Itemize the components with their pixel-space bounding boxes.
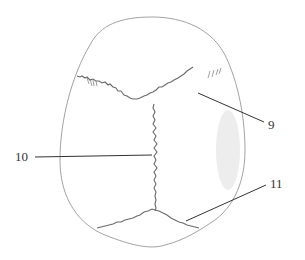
coronal-texture-right bbox=[208, 68, 221, 78]
skull-diagram: 9 10 11 bbox=[0, 0, 305, 260]
skull-illustration bbox=[0, 0, 305, 260]
label-10: 10 bbox=[15, 150, 28, 163]
leader-line-10 bbox=[35, 155, 152, 157]
sagittal-suture bbox=[153, 104, 157, 211]
coronal-suture bbox=[77, 67, 193, 99]
parietal-shading bbox=[216, 110, 240, 190]
leader-line-11 bbox=[186, 185, 266, 221]
label-9: 9 bbox=[268, 118, 275, 131]
label-11: 11 bbox=[270, 177, 283, 190]
lambdoid-suture bbox=[97, 209, 199, 228]
